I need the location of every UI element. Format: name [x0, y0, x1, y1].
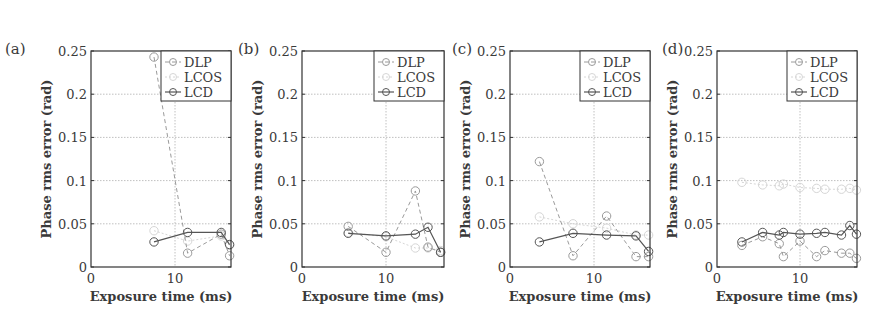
panel-c: (c)00.050.10.150.20.25010Exposure time (… [452, 40, 653, 304]
legend-label-lcd: LCD [184, 85, 213, 100]
x-tick-label: 0 [298, 271, 306, 286]
legend: DLPLCOSLCD [580, 51, 650, 101]
panel-label: (a) [5, 40, 26, 58]
figure: (a)00.050.10.150.20.25010Exposure time (… [0, 0, 891, 318]
y-tick-label: 0 [79, 260, 87, 275]
y-tick-label: 0.25 [269, 44, 298, 59]
series-dlp [535, 157, 653, 260]
panel-label: (d) [662, 40, 683, 58]
legend-label-dlp: DLP [184, 55, 212, 70]
legend-label-lcos: LCOS [184, 70, 222, 85]
series-lcd [535, 229, 653, 256]
x-axis-title: Exposure time (ms) [509, 289, 652, 304]
panel-a: (a)00.050.10.150.20.25010Exposure time (… [5, 40, 234, 304]
x-tick-label: 0 [87, 271, 95, 286]
y-tick-label: 0.25 [477, 44, 506, 59]
x-tick-label: 0 [506, 271, 514, 286]
y-tick-label: 0 [290, 260, 298, 275]
y-tick-label: 0.05 [477, 217, 506, 232]
legend: DLPLCOSLCD [787, 51, 857, 101]
series-dlp [738, 233, 861, 263]
y-axis-title: Phase rms error (rad) [250, 80, 265, 239]
y-tick-label: 0.15 [269, 130, 298, 145]
x-axis-title: Exposure time (ms) [302, 289, 445, 304]
x-tick-label: 10 [792, 271, 809, 286]
series-dlp [344, 187, 445, 257]
y-tick-label: 0.2 [66, 87, 87, 102]
legend: DLPLCOSLCD [161, 51, 231, 101]
x-axis-title: Exposure time (ms) [90, 289, 233, 304]
y-tick-label: 0.05 [269, 217, 298, 232]
panel-label: (c) [452, 40, 472, 58]
y-tick-label: 0.15 [684, 130, 713, 145]
panel-label: (b) [238, 40, 259, 58]
y-tick-label: 0.05 [684, 217, 713, 232]
data-point-marker [779, 252, 787, 260]
legend: DLPLCOSLCD [374, 51, 444, 101]
y-tick-label: 0.25 [58, 44, 87, 59]
legend-label-lcd: LCD [397, 85, 426, 100]
data-point-marker [775, 239, 783, 247]
legend-label-lcos: LCOS [810, 70, 848, 85]
x-tick-label: 0 [713, 271, 721, 286]
y-axis-title: Phase rms error (rad) [39, 80, 54, 239]
y-tick-label: 0.2 [277, 87, 298, 102]
chart-canvas: (a)00.050.10.150.20.25010Exposure time (… [0, 0, 891, 318]
y-tick-label: 0.2 [485, 87, 506, 102]
y-axis-title: Phase rms error (rad) [665, 80, 680, 239]
legend-label-lcos: LCOS [397, 70, 435, 85]
legend-label-dlp: DLP [810, 55, 838, 70]
y-tick-label: 0.1 [692, 174, 713, 189]
y-tick-label: 0.15 [58, 130, 87, 145]
legend-label-lcd: LCD [810, 85, 839, 100]
data-point-marker [602, 212, 610, 220]
y-tick-label: 0.05 [58, 217, 87, 232]
y-tick-label: 0.1 [66, 174, 87, 189]
legend-label-dlp: DLP [603, 55, 631, 70]
y-axis-title: Phase rms error (rad) [458, 80, 473, 239]
legend-label-lcd: LCD [603, 85, 632, 100]
x-tick-label: 10 [586, 271, 603, 286]
legend-label-dlp: DLP [397, 55, 425, 70]
y-tick-label: 0.2 [692, 87, 713, 102]
series-lcd [738, 221, 861, 246]
legend-label-lcos: LCOS [603, 70, 641, 85]
y-tick-label: 0 [705, 260, 713, 275]
x-tick-label: 10 [167, 271, 184, 286]
x-tick-label: 10 [378, 271, 395, 286]
y-tick-label: 0 [498, 260, 506, 275]
y-tick-label: 0.1 [277, 174, 298, 189]
panel-b: (b)00.050.10.150.20.25010Exposure time (… [238, 40, 445, 304]
panel-d: (d)00.050.10.150.20.25010Exposure time (… [662, 40, 861, 304]
x-axis-title: Exposure time (ms) [716, 289, 859, 304]
y-tick-label: 0.25 [684, 44, 713, 59]
y-tick-label: 0.1 [485, 174, 506, 189]
y-tick-label: 0.15 [477, 130, 506, 145]
